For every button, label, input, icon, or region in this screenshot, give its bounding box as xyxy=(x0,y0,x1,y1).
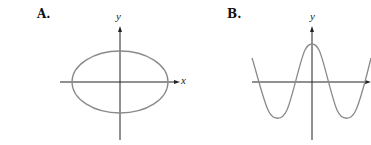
graphs-canvas xyxy=(0,0,371,145)
panel-a-x-arrow-icon xyxy=(174,80,180,84)
panel-a-graph xyxy=(60,26,180,140)
panel-a-y-arrow-icon xyxy=(118,26,122,32)
panel-b-y-arrow-icon xyxy=(310,26,314,32)
panel-b-graph xyxy=(252,26,371,140)
